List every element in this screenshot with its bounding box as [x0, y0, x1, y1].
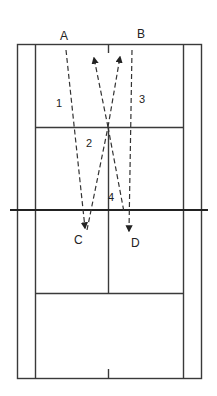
player-label-a: A — [60, 29, 68, 43]
player-label-c: C — [74, 233, 83, 247]
shot-number-2: 2 — [86, 137, 92, 149]
shot-2-left-path — [94, 58, 108, 127]
shot-1-path — [66, 50, 85, 228]
shot-number-4: 4 — [108, 191, 114, 203]
shot-number-1: 1 — [56, 97, 62, 109]
shot-3-path — [129, 50, 132, 231]
outer-boundary — [18, 45, 202, 379]
shot-number-3: 3 — [139, 93, 145, 105]
shot-2-right-path — [108, 57, 120, 127]
player-label-d: D — [131, 236, 140, 250]
player-label-b: B — [137, 27, 145, 41]
court-diagram: A B C D 1 2 3 4 — [0, 0, 217, 396]
